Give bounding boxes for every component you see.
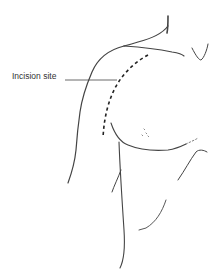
shoulder-outline bbox=[68, 46, 124, 183]
neck-outline bbox=[167, 16, 168, 33]
sternal-notch bbox=[192, 44, 208, 60]
arm-crease bbox=[112, 170, 121, 192]
nipple-marks bbox=[142, 129, 149, 137]
torso-outline bbox=[178, 150, 207, 180]
chest-outline-faint bbox=[186, 138, 198, 144]
incision-site-label: Incision site bbox=[12, 71, 56, 81]
shoulder-illustration bbox=[0, 0, 224, 277]
clavicle-outline bbox=[124, 46, 184, 56]
torso-lower-outline bbox=[139, 200, 166, 230]
arm-outline bbox=[119, 142, 124, 268]
dashed-incision-line bbox=[103, 55, 148, 138]
neck-flare bbox=[124, 26, 168, 46]
